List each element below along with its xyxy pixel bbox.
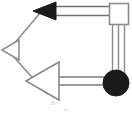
scan-artifact-secondary (63, 109, 69, 112)
edge-top-horizontal (53, 7, 112, 16)
edge-diagonal-upper (13, 13, 40, 45)
node-circle (103, 70, 129, 96)
arrowhead-hollow-large (26, 62, 59, 100)
diagram-canvas: UML-style relationship diagram (0, 0, 132, 115)
scan-artifact (51, 101, 55, 105)
arrowhead-hollow-small (2, 40, 19, 60)
diagram-svg (0, 0, 132, 115)
node-square (110, 4, 129, 25)
